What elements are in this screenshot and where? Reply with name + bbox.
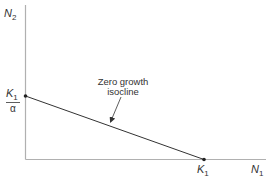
x-intercept-label: K1	[197, 163, 209, 178]
svg-text:α: α	[10, 103, 16, 114]
svg-text:K1: K1	[6, 87, 18, 102]
x-axis-label: N1	[251, 163, 264, 178]
x-intercept-point	[202, 158, 206, 162]
y-axis-label: N2	[4, 7, 17, 22]
y-intercept-label: K1 α	[6, 87, 20, 114]
isocline-diagram: N2 N1 K1 α K1 Zero growth isocline	[0, 0, 269, 179]
zero-growth-isocline	[26, 96, 205, 160]
annotation-line-2: isocline	[107, 86, 139, 97]
annotation-arrow	[111, 97, 122, 122]
y-intercept-point	[24, 94, 28, 98]
